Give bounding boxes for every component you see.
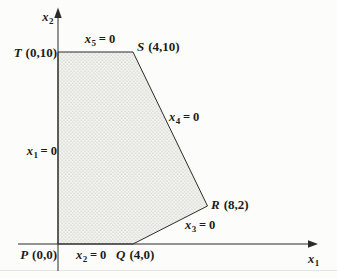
edge-label-x4: x4 = 0	[169, 111, 199, 124]
vertex-letter: Q	[116, 247, 125, 262]
x-axis-label-var: x	[308, 252, 314, 266]
edge-label-x5: x5 = 0	[82, 33, 118, 46]
edge-label-sub: 1	[33, 150, 38, 160]
vertex-letter: R	[211, 197, 220, 212]
y-axis-arrowhead-icon	[54, 8, 61, 19]
edge-label-rest: = 0	[180, 110, 200, 124]
x-axis-label-sub: 1	[315, 258, 320, 268]
vertex-label-Q: Q(4,0)	[116, 248, 154, 262]
vertex-label-T: T(0,10)	[6, 46, 57, 60]
vertex-letter: T	[14, 45, 22, 60]
edge-label-var: x	[185, 218, 191, 232]
edge-label-sub: 3	[192, 224, 197, 234]
vertex-letter: S	[137, 39, 144, 54]
feasible-region-figure: x2 x1 T(0,10) S(4,10) R(8,2) P(0,0) Q(4,…	[0, 0, 337, 278]
vertex-label-R: R(8,2)	[211, 198, 249, 212]
vertex-label-P: P(0,0)	[6, 248, 57, 262]
vertex-coords: (0,10)	[26, 45, 57, 60]
vertex-coords: (4,0)	[129, 247, 154, 262]
edge-label-rest: = 0	[96, 32, 116, 46]
edge-label-sub: 4	[176, 116, 181, 126]
edge-label-var: x	[27, 144, 33, 158]
edge-label-rest: = 0	[37, 144, 57, 158]
edge-label-rest: = 0	[87, 248, 107, 262]
edge-label-x2: x2 = 0	[76, 249, 106, 262]
x-axis-arrowhead-icon	[308, 240, 318, 247]
y-axis-label-var: x	[42, 10, 48, 24]
vertex-label-S: S(4,10)	[137, 40, 180, 54]
edge-label-var: x	[169, 110, 175, 124]
edge-label-var: x	[85, 32, 91, 46]
edge-label-var: x	[76, 248, 82, 262]
y-axis-label: x2	[25, 11, 53, 24]
vertex-letter: P	[20, 247, 28, 262]
edge-label-x3: x3 = 0	[185, 219, 215, 232]
y-axis-label-sub: 2	[49, 16, 54, 26]
edge-label-sub: 2	[83, 254, 88, 264]
edge-label-rest: = 0	[196, 218, 216, 232]
vertex-coords: (8,2)	[224, 197, 249, 212]
vertex-coords: (4,10)	[148, 39, 179, 54]
edge-label-x1: x1 = 0	[19, 145, 57, 158]
edge-label-sub: 5	[92, 38, 97, 48]
vertex-coords: (0,0)	[32, 247, 57, 262]
x-axis-label: x1	[308, 253, 319, 266]
feasible-region-polygon	[58, 52, 208, 244]
